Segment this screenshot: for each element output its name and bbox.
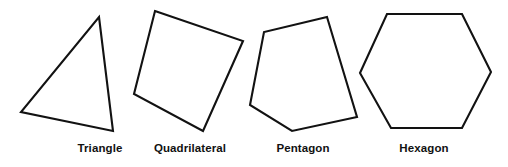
pentagon-shape bbox=[250, 17, 357, 131]
quadrilateral-shape bbox=[134, 11, 243, 131]
hexagon-label: Hexagon bbox=[399, 143, 448, 155]
triangle-label: Triangle bbox=[78, 143, 123, 155]
pentagon-label: Pentagon bbox=[276, 143, 329, 155]
polygon-figure: Triangle Quadrilateral Pentagon Hexagon bbox=[0, 0, 508, 167]
triangle-shape bbox=[21, 17, 113, 131]
quadrilateral-label: Quadrilateral bbox=[154, 143, 226, 155]
hexagon-shape bbox=[360, 14, 491, 128]
